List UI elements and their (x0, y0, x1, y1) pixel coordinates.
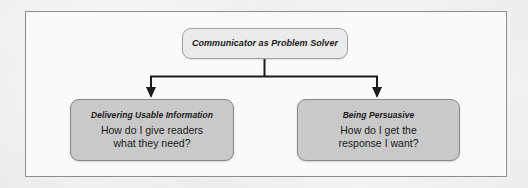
node-right-title: Being Persuasive (343, 110, 415, 121)
node-left-title: Delivering Usable Information (91, 110, 213, 121)
node-right-question: How do I get the response I want? (339, 124, 419, 150)
node-root: Communicator as Problem Solver (182, 28, 348, 59)
node-root-title: Communicator as Problem Solver (192, 38, 338, 49)
node-being-persuasive: Being Persuasive How do I get the respon… (297, 99, 460, 161)
node-left-question: How do I give readers what they need? (101, 124, 203, 150)
node-delivering-usable-information: Delivering Usable Information How do I g… (70, 99, 234, 161)
